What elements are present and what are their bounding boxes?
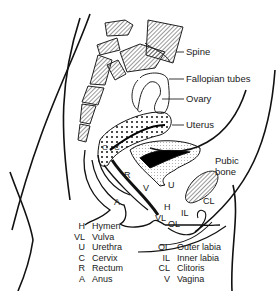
letter-cervix-2: C [114,142,120,153]
letter-cervix-1: C [102,142,108,153]
letter-outer-labia: OL [168,219,180,230]
label-pubic-bone-line1: Pubic [215,155,239,166]
letter-clitoris: CL [203,196,215,207]
legend-item: VVagina [150,274,221,285]
letter-anus: A [114,197,120,208]
legend-item: AAnus [65,274,123,285]
label-fallopian-tubes: Fallopian tubes [186,73,250,84]
label-uterus: Uterus [186,119,214,130]
legend-item: RRectum [65,263,123,274]
legend-item: ILInner labia [150,253,221,264]
letter-rectum: R [124,170,131,181]
label-pubic-bone-line2: bone [215,166,236,177]
letter-urethra: U [168,180,175,191]
callout-lines [0,0,280,291]
legend-right: OLOuter labia ILInner labia CLClitoris V… [150,242,221,284]
letter-hymen: H [164,202,171,213]
label-spine: Spine [186,46,210,57]
legend-left: HHymen VLVulva UUrethra CCervix RRectum … [65,221,123,285]
legend-item: CCervix [65,253,123,264]
legend-item: HHymen [65,221,123,232]
legend-item: OLOuter labia [150,242,221,253]
letter-vagina: V [143,183,149,194]
legend-item: VLVulva [65,232,123,243]
legend-item: UUrethra [65,242,123,253]
label-ovary: Ovary [186,93,211,104]
letter-inner-labia: IL [181,208,189,219]
letter-vulva: VL [155,213,166,224]
legend-item: CLClitoris [150,263,221,274]
